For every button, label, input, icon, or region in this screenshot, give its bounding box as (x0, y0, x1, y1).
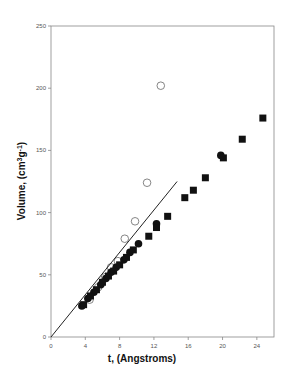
data-point (87, 292, 94, 299)
data-point (135, 240, 143, 248)
data-point (157, 82, 165, 90)
data-point (80, 301, 87, 308)
data-point (190, 187, 197, 194)
y-axis-title: Volume, (cm3g-1) (16, 142, 28, 220)
data-point (181, 194, 188, 201)
plot-frame (51, 26, 274, 337)
y-tick-label: 250 (36, 23, 47, 29)
series-open-circles (86, 82, 165, 304)
data-point (202, 174, 209, 181)
data-point (153, 224, 160, 231)
data-point (164, 213, 171, 220)
y-tick-label: 100 (36, 210, 47, 216)
x-tick-label: 0 (49, 343, 53, 349)
y-tick-label: 0 (43, 334, 47, 340)
data-point (259, 115, 266, 122)
x-tick-label: 4 (84, 343, 88, 349)
data-point (131, 218, 139, 226)
x-tick-label: 12 (151, 343, 158, 349)
x-tick-label: 24 (254, 343, 261, 349)
data-point (220, 154, 227, 161)
series-reference-line (51, 182, 177, 338)
data-point (145, 233, 152, 240)
data-point (143, 179, 151, 187)
data-point (116, 261, 123, 268)
plot-axes: 04812162024050100150200250 (36, 23, 274, 349)
x-axis-title: t, (Angstroms) (108, 353, 176, 364)
y-tick-label: 50 (39, 272, 46, 278)
y-tick-label: 200 (36, 85, 47, 91)
data-point (239, 136, 246, 143)
data-point (93, 286, 100, 293)
plot-series (51, 82, 266, 337)
y-tick-label: 150 (36, 147, 47, 153)
scatter-chart: 04812162024050100150200250 t, (Angstroms… (0, 0, 288, 384)
data-point (99, 279, 106, 286)
x-tick-label: 8 (118, 343, 122, 349)
data-point (123, 254, 130, 261)
series-filled-squares (80, 115, 266, 309)
x-tick-label: 16 (185, 343, 192, 349)
data-point (121, 235, 129, 243)
data-point (110, 268, 117, 275)
data-point (130, 246, 137, 253)
x-tick-label: 20 (219, 343, 226, 349)
